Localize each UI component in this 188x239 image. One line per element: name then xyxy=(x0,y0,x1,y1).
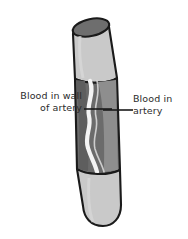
artery-diagram xyxy=(0,0,188,239)
lower-tube-segment xyxy=(77,169,121,226)
label-blood-in-wall: Blood in wall of artery xyxy=(8,90,82,114)
label-blood-in-wall-line2: of artery xyxy=(8,102,82,114)
label-blood-in-wall-line1: Blood in wall xyxy=(8,90,82,102)
label-blood-in-artery-line2: artery xyxy=(133,105,185,117)
label-blood-in-artery-line1: Blood in xyxy=(133,93,185,105)
artery-diagram-page: Blood in wall of artery Blood in artery xyxy=(0,0,188,239)
label-blood-in-artery: Blood in artery xyxy=(133,93,185,117)
